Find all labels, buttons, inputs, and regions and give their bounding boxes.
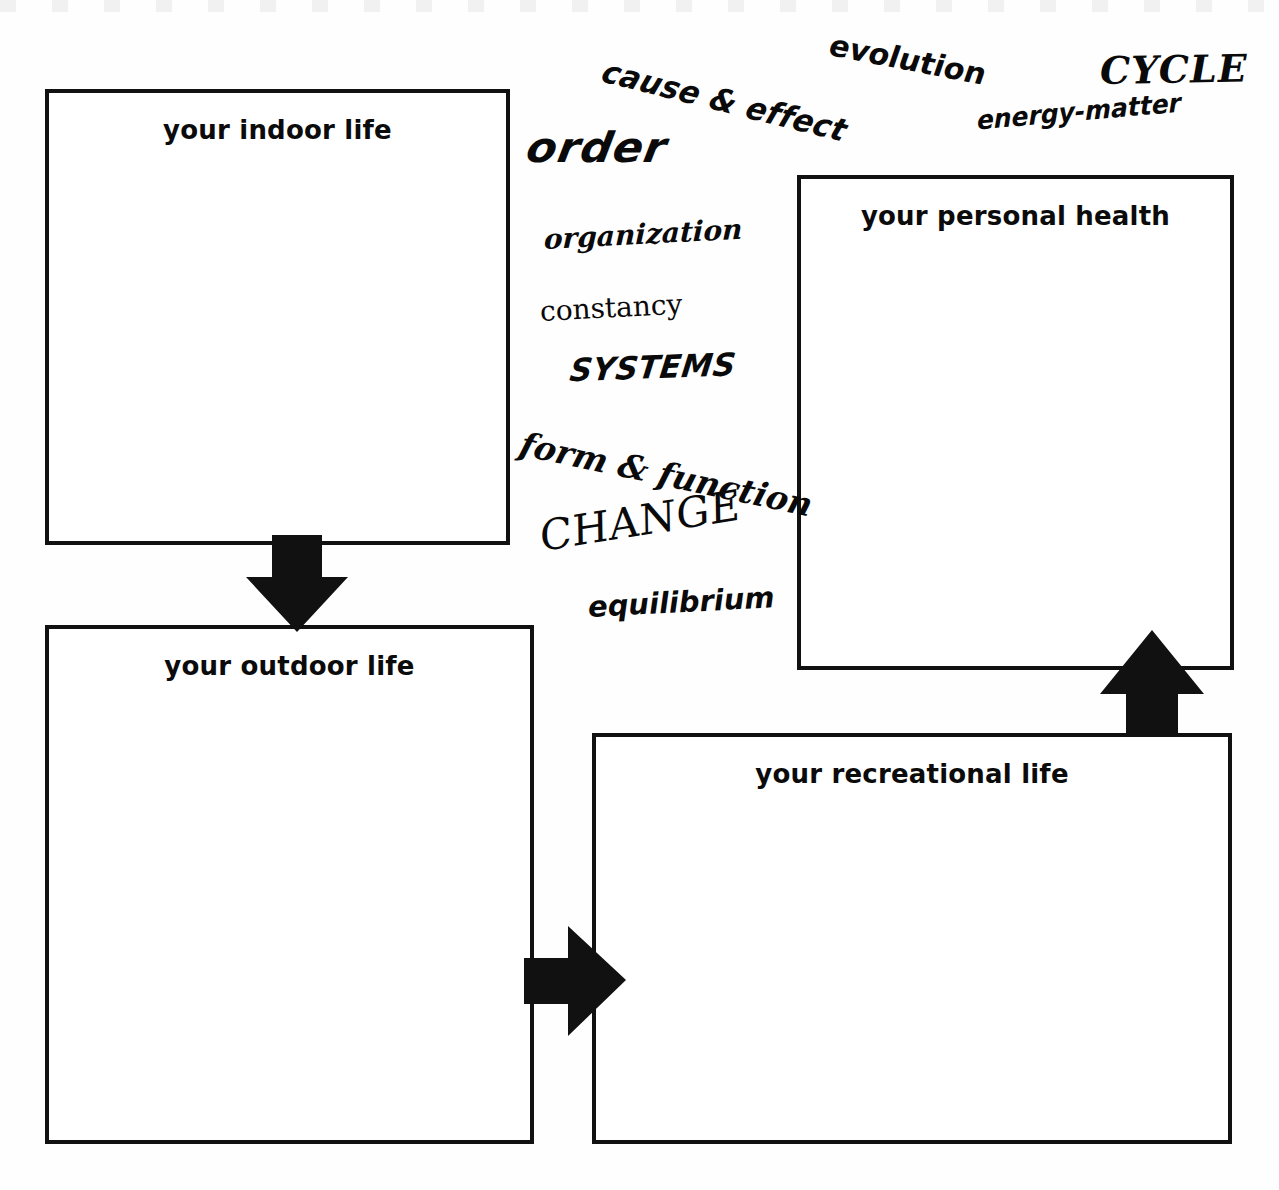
- concept-word-constancy: constancy: [539, 291, 683, 326]
- box-your-indoor-life[interactable]: your indoor life: [45, 89, 510, 545]
- concept-word-equilibrium: equilibrium: [587, 583, 775, 622]
- box-label-indoor: your indoor life: [49, 115, 506, 145]
- arrow-down-icon: [244, 535, 350, 633]
- concept-word-order: order: [523, 127, 670, 169]
- concept-word-systems: SYSTEMS: [568, 349, 738, 387]
- box-your-recreational-life[interactable]: your recreational life: [592, 733, 1232, 1144]
- scan-noise-artifact: [0, 0, 1279, 12]
- concept-word-change: CHANGE: [540, 484, 741, 558]
- box-your-outdoor-life[interactable]: your outdoor life: [45, 625, 534, 1144]
- box-your-personal-health[interactable]: your personal health: [797, 175, 1234, 670]
- box-label-recreation: your recreational life: [596, 759, 1228, 789]
- box-label-health: your personal health: [801, 201, 1230, 231]
- concept-word-cycle: CYCLE: [1100, 49, 1248, 90]
- concept-word-evolution: evolution: [825, 31, 991, 90]
- box-label-outdoor: your outdoor life: [49, 651, 530, 681]
- arrow-right-icon: [524, 920, 628, 1040]
- arrow-up-icon: [1098, 628, 1206, 738]
- concept-word-organization: organization: [544, 216, 744, 254]
- worksheet-page: your indoor life your personal health yo…: [0, 0, 1279, 1190]
- concept-word-energy-matter: energy-matter: [977, 90, 1181, 134]
